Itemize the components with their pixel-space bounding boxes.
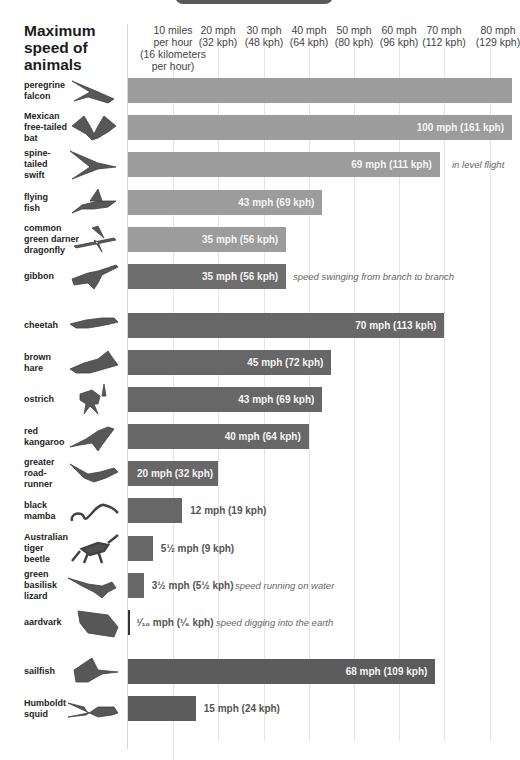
bar-annotation: speed digging into the earth	[216, 610, 333, 635]
x-tick-label: 70 mph(112 kph)	[422, 24, 466, 48]
x-tick-label: 30 mph(48 kph)	[245, 24, 284, 48]
bar-aardvark[interactable]	[128, 610, 130, 635]
bar-value-label: 15 mph (24 kph)	[204, 696, 280, 721]
aardvark-icon	[68, 607, 120, 637]
x-tick-label: 10 milesper hour(16 kilometersper hour)	[140, 24, 206, 72]
gibbon-icon	[68, 261, 120, 291]
chart-title: Maximum speed of animals	[24, 22, 124, 73]
hare-icon	[68, 347, 120, 377]
bar-value-label: 68 mph (109 kph)	[346, 659, 428, 684]
bat-icon	[68, 112, 120, 142]
bar-value-label: 69 mph (111 kph)	[351, 152, 432, 177]
bar-value-label: 5½ mph (9 kph)	[161, 536, 234, 561]
sailfish-icon	[68, 656, 120, 686]
ostrich-icon	[68, 384, 120, 414]
bar-value-label: 43 mph (69 kph)	[238, 190, 314, 215]
bar-value-label: 12 mph (19 kph)	[190, 498, 266, 523]
bar-value-label: 100 mph (161 kph)	[417, 115, 504, 140]
bar-value-label: 43 mph (69 kph)	[238, 387, 314, 412]
bar-value-label: ¹⁄₁₀ mph (¹⁄₆ kph)	[136, 610, 213, 635]
falcon-icon	[68, 75, 120, 105]
gridline	[444, 47, 445, 741]
squid-icon	[68, 693, 120, 723]
x-tick-label: 40 mph(64 kph)	[290, 24, 329, 48]
bar-value-label: 20 mph (32 kph)	[137, 461, 213, 486]
x-tick-label: 60 mph(96 kph)	[380, 24, 419, 48]
cheetah-icon	[68, 310, 120, 340]
x-tick-label: 20 mph(32 kph)	[199, 24, 238, 48]
flying-fish-icon	[68, 187, 120, 217]
bar-green-basilisk-lizard[interactable]	[128, 573, 144, 598]
x-tick-label: 80 mph(129 kph)	[476, 24, 520, 48]
kangaroo-icon	[68, 421, 120, 451]
bar-value-label: 35 mph (56 kph)	[202, 264, 278, 289]
bar-value-label: 40 mph (64 kph)	[225, 424, 301, 449]
snake-icon	[68, 495, 120, 525]
x-tick-label: 50 mph(80 kph)	[335, 24, 374, 48]
dragonfly-icon	[68, 224, 120, 254]
bar-humboldt-squid[interactable]	[128, 696, 196, 721]
bar-value-label: 45 mph (72 kph)	[247, 350, 323, 375]
bar-value-label: 70 mph (113 kph)	[355, 313, 436, 338]
bar-australian-tiger-beetle[interactable]	[128, 536, 153, 561]
bar-annotation: speed running on water	[235, 573, 334, 598]
bar-peregrine-falcon[interactable]	[128, 78, 512, 103]
bar-black-mamba[interactable]	[128, 498, 182, 523]
top-banner-tab	[175, 0, 333, 4]
beetle-icon	[68, 533, 120, 563]
swift-icon	[68, 149, 120, 179]
bar-value-label: 3½ mph (5½ kph)	[152, 573, 234, 598]
lizard-icon	[68, 570, 120, 600]
roadrunner-icon	[68, 458, 120, 488]
bar-annotation: speed swinging from branch to branch	[293, 264, 454, 289]
bar-value-label: 35 mph (56 kph)	[202, 227, 278, 252]
bar-annotation: in level flight	[452, 152, 504, 177]
